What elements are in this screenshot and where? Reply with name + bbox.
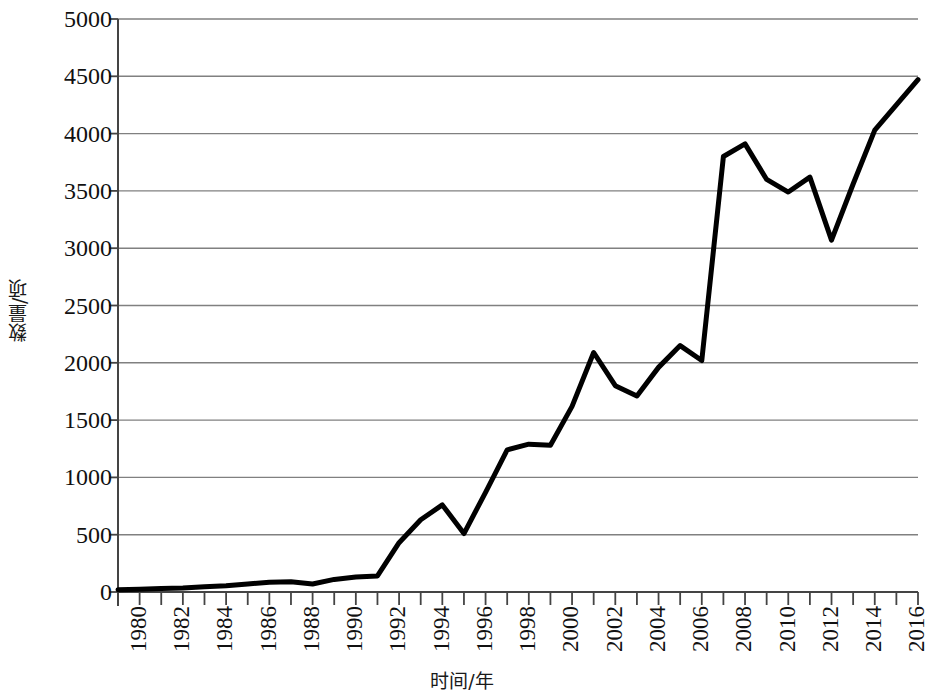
x-axis-tick-label: 2002 bbox=[603, 606, 626, 652]
x-axis-tick-label: 1984 bbox=[213, 606, 236, 652]
x-axis-tick-label: 1980 bbox=[127, 606, 150, 652]
x-axis-tick-label: 2000 bbox=[559, 606, 582, 652]
x-axis-tick-label: 2008 bbox=[732, 606, 755, 652]
x-axis-tick-label: 1994 bbox=[430, 606, 453, 652]
x-axis-tick-label: 1996 bbox=[473, 606, 496, 652]
x-axis-tick-label: 1988 bbox=[300, 606, 323, 652]
x-axis-tick-label: 2010 bbox=[776, 606, 799, 652]
x-axis-tick-label: 1998 bbox=[516, 606, 539, 652]
x-axis-tick-label: 1982 bbox=[170, 606, 193, 652]
x-axis-tick-label: 2004 bbox=[646, 606, 669, 652]
x-axis-tick-label: 2006 bbox=[689, 606, 712, 652]
x-axis-tick-label: 2016 bbox=[905, 606, 928, 652]
x-axis-tick-label: 1986 bbox=[257, 606, 280, 652]
x-axis-title: 时间/年 bbox=[0, 666, 924, 693]
x-axis-tick-label: 1992 bbox=[386, 606, 409, 652]
x-axis-tick-label: 2014 bbox=[862, 606, 885, 652]
x-axis-tick-label: 1990 bbox=[343, 606, 366, 652]
x-axis-tick-label: 2012 bbox=[819, 606, 842, 652]
